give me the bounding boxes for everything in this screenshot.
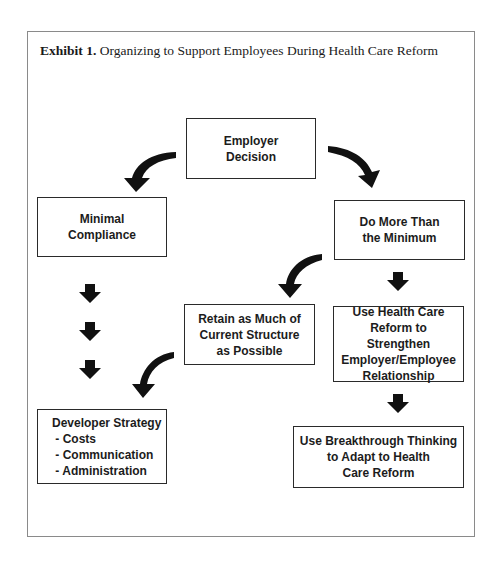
node-text: Care Reform (300, 465, 457, 481)
node-text: - Communication (52, 447, 161, 463)
node-text: as Possible (198, 343, 301, 359)
node-text: Minimal (68, 211, 136, 227)
node-text: Compliance (68, 227, 136, 243)
node-text: Developer Strategy (52, 415, 161, 431)
node-text: Current Structure (198, 327, 301, 343)
node-retain-structure: Retain as Much of Current Structure as P… (184, 304, 315, 365)
node-text: Relationship (338, 368, 459, 384)
block-arrow-down-icon (79, 322, 101, 341)
node-text: to Adapt to Health (300, 449, 457, 465)
block-arrow-down-icon (387, 394, 409, 413)
node-text: Decision (224, 149, 279, 165)
node-text: Employer (224, 133, 279, 149)
curved-arrow-icon (328, 146, 380, 188)
curved-arrow-icon (132, 352, 174, 398)
node-breakthrough-thinking: Use Breakthrough Thinking to Adapt to He… (293, 426, 464, 488)
curved-arrow-icon (124, 152, 176, 192)
node-minimal-compliance: Minimal Compliance (37, 197, 167, 257)
node-do-more-than-minimum: Do More Than the Minimum (334, 200, 465, 260)
node-text: Use Breakthrough Thinking (300, 433, 457, 449)
block-arrow-down-icon (79, 360, 101, 379)
node-developer-strategy: Developer Strategy - Costs - Communicati… (37, 409, 167, 484)
node-text: - Costs (52, 431, 161, 447)
node-text: Employer/Employee (338, 352, 459, 368)
node-text: the Minimum (360, 230, 440, 246)
node-text: Do More Than (360, 214, 440, 230)
node-use-health-care-reform: Use Health Care Reform to Strengthen Emp… (333, 306, 464, 382)
block-arrow-down-icon (79, 284, 101, 303)
block-arrow-down-icon (387, 272, 409, 291)
node-text: Use Health Care (338, 304, 459, 320)
curved-arrow-icon (278, 254, 322, 298)
node-text: - Administration (52, 463, 161, 479)
node-text: Reform to Strengthen (338, 320, 459, 352)
node-text: Retain as Much of (198, 311, 301, 327)
node-employer-decision: Employer Decision (186, 118, 316, 179)
